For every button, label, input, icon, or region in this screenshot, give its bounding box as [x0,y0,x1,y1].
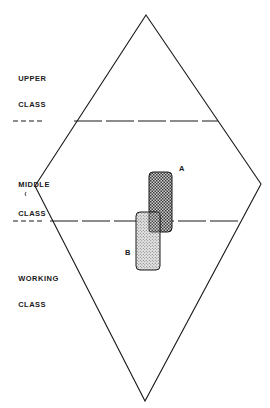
upper-class-line2: CLASS [18,100,46,109]
working-class-label: WORKING CLASS [13,259,59,311]
middle-class-label: MIDDLE CLASS [13,165,50,217]
region-b-label: B [125,248,130,257]
region-overlap [149,212,160,232]
middle-class-line2: CLASS [18,209,46,218]
region-a-label: A [179,164,184,173]
upper-class-line1: UPPER [18,74,46,83]
working-class-line2: CLASS [18,300,46,309]
diamond-outline [35,15,261,401]
middle-class-line1: MIDDLE [18,180,50,189]
working-class-line1: WORKING [18,274,59,283]
upper-class-label: UPPER CLASS [13,59,47,111]
